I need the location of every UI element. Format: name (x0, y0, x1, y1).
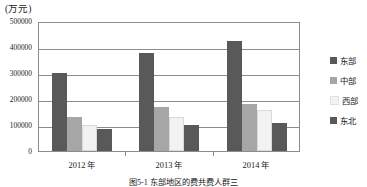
x-tick-label: 2012 年 (69, 158, 96, 170)
y-tick-label: 100000 (10, 122, 32, 130)
legend-label: 东部 (340, 54, 356, 66)
legend-swatch-icon (330, 57, 337, 64)
bar (154, 107, 169, 151)
bar (227, 41, 242, 151)
figure-caption: 图5-1 东部地区的费共费人群三 (0, 175, 367, 187)
bar (139, 53, 154, 151)
bar (97, 129, 112, 151)
x-tick-label: 2014 年 (243, 158, 270, 170)
bar-series-group (39, 23, 299, 151)
y-axis-tick-labels: 5000004000003000002000001000000 (0, 22, 34, 152)
y-tick-label: 200000 (10, 96, 32, 104)
y-axis-unit-label: (万元) (5, 1, 31, 15)
plot-area (38, 22, 300, 152)
bar (67, 117, 82, 151)
y-tick-label: 500000 (10, 18, 32, 26)
legend-label: 西部 (342, 94, 358, 106)
bar (169, 117, 184, 151)
legend-item-1[interactable]: 中部 (330, 70, 367, 90)
y-tick-label: 400000 (10, 44, 32, 52)
bar (184, 125, 199, 151)
chart-legend: 东部中部西部东北 (330, 50, 367, 130)
legend-swatch-icon (330, 77, 337, 84)
bar (242, 104, 257, 151)
legend-item-2[interactable]: 西部 (330, 90, 367, 110)
x-tick-mark (213, 152, 214, 156)
bar (52, 73, 67, 151)
bar (257, 110, 272, 151)
x-tick-label: 2013 年 (156, 158, 183, 170)
legend-swatch-icon (330, 117, 337, 124)
legend-item-0[interactable]: 东部 (330, 50, 367, 70)
legend-item-3[interactable]: 东北 (330, 110, 367, 130)
legend-label: 中部 (340, 74, 356, 86)
bar (272, 123, 287, 151)
y-tick-label: 0 (28, 148, 32, 156)
legend-swatch-icon (330, 96, 339, 105)
y-tick-label: 300000 (10, 70, 32, 78)
figure-container: (万元) 5000004000003000002000001000000 201… (0, 0, 367, 187)
x-tick-mark (125, 152, 126, 156)
legend-label: 东北 (340, 114, 356, 126)
bar (82, 125, 97, 151)
